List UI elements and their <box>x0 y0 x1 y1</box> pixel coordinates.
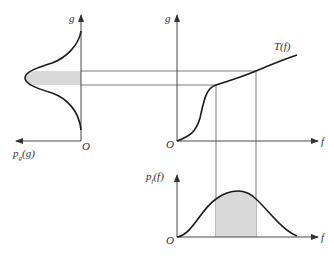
bottom-pf-axis-label: pf(f) <box>145 170 164 185</box>
diagram-canvas: g O pg(g) g O f T(f) pf(f) O f <box>0 0 334 257</box>
bottom-f-axis-label: f <box>321 231 326 243</box>
bottom-shaded-region <box>216 191 256 237</box>
bottom-origin-label: O <box>166 234 174 246</box>
top-g-axis-label: g <box>165 12 171 24</box>
bottom-right-panel: pf(f) O f <box>145 170 326 246</box>
left-pg-axis-label: pg(g) <box>12 147 35 162</box>
left-shaded-region <box>25 71 81 85</box>
transform-curve <box>177 55 297 141</box>
left-panel: g O pg(g) <box>12 12 90 162</box>
left-g-axis-label: g <box>69 12 75 24</box>
left-origin-label: O <box>82 140 90 152</box>
top-f-axis-label: f <box>321 135 326 147</box>
top-right-panel: g O f T(f) <box>165 12 326 150</box>
top-origin-label: O <box>166 138 174 150</box>
transform-curve-label: T(f) <box>274 40 291 53</box>
